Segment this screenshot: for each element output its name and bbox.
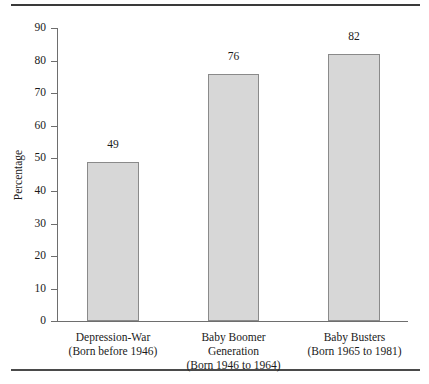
- y-tick-label: 30: [22, 218, 46, 230]
- category-line: (Born 1965 to 1981): [284, 344, 425, 358]
- y-tick-mark: [51, 158, 57, 159]
- bar-value-label: 76: [208, 51, 259, 63]
- category-line: (Born before 1946): [43, 344, 183, 358]
- y-axis-line: [57, 28, 58, 321]
- x-axis-line: [57, 321, 408, 322]
- y-tick-mark: [51, 126, 57, 127]
- bar-value-label: 49: [87, 139, 139, 151]
- category-line: Baby Boomer: [163, 330, 304, 344]
- bar-chart: Percentage 90 80 70 60 50 40 30 20 10 0 …: [0, 0, 429, 384]
- y-tick-mark: [51, 321, 57, 322]
- x-category-label-baby-busters: Baby Busters (Born 1965 to 1981): [284, 330, 425, 358]
- y-tick-label: 90: [22, 22, 46, 34]
- category-line: (Born 1946 to 1964): [163, 358, 304, 372]
- y-tick-label: 0: [22, 315, 46, 327]
- y-tick-label: 70: [22, 87, 46, 99]
- y-tick-mark: [51, 191, 57, 192]
- y-tick-mark: [51, 224, 57, 225]
- y-tick-mark: [51, 28, 57, 29]
- category-line: Generation: [163, 344, 304, 358]
- bar-baby-busters[interactable]: [328, 54, 380, 321]
- bar-depression-war[interactable]: [87, 162, 139, 321]
- y-tick-mark: [51, 256, 57, 257]
- y-tick-label: 10: [22, 283, 46, 295]
- x-category-label-baby-boomer-generation: Baby Boomer Generation (Born 1946 to 196…: [163, 330, 304, 372]
- y-tick-mark: [51, 93, 57, 94]
- y-tick-label: 80: [22, 55, 46, 67]
- category-line: Baby Busters: [284, 330, 425, 344]
- bar-value-label: 82: [328, 31, 380, 43]
- y-tick-label: 20: [22, 250, 46, 262]
- bar-baby-boomer-generation[interactable]: [208, 74, 259, 321]
- x-category-label-depression-war: Depression-War (Born before 1946): [43, 330, 183, 358]
- y-tick-mark: [51, 289, 57, 290]
- y-tick-label: 50: [22, 152, 46, 164]
- y-tick-label: 40: [22, 185, 46, 197]
- y-tick-label: 60: [22, 120, 46, 132]
- y-tick-mark: [51, 61, 57, 62]
- category-line: Depression-War: [43, 330, 183, 344]
